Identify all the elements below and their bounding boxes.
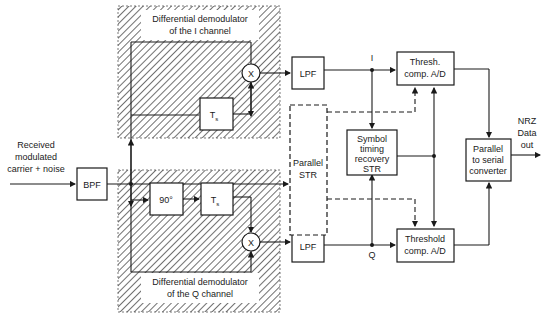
thresh-i-label-2: comp. A/D <box>404 69 446 79</box>
output-label-2: Data <box>517 128 536 138</box>
output-label-3: out <box>521 140 534 150</box>
input-label-3: carrier + noise <box>7 164 64 174</box>
p2s-label-2: to serial <box>472 155 504 165</box>
i-multiplier-label: X <box>248 69 254 79</box>
str-label-4: STR <box>363 164 382 174</box>
i-lpf-label: LPF <box>300 69 317 79</box>
str-label-2: timing <box>360 144 384 154</box>
thresh-i-label-1: Thresh. <box>410 57 441 67</box>
p2s-label-1: Parallel <box>473 144 503 154</box>
str-label-3: recovery <box>355 154 390 164</box>
p2s-label-3: converter <box>469 166 507 176</box>
q-delay-block <box>201 183 233 215</box>
input-label-2: modulated <box>15 152 57 162</box>
phase-shift-label: 90° <box>159 195 173 205</box>
output-label-1: NRZ <box>518 116 537 126</box>
thresh-q-label-2: comp. A/D <box>404 246 446 256</box>
bpf-label: BPF <box>83 180 101 190</box>
i-demod-title-2: of the I channel <box>169 26 231 36</box>
parallel-str-label-1: Parallel <box>293 158 323 168</box>
str-label-1: Symbol <box>357 134 387 144</box>
q-demod-title-2: of the Q channel <box>167 289 233 299</box>
q-signal-label: Q <box>368 250 375 260</box>
q-lpf-label: LPF <box>300 242 317 252</box>
q-demod-title-1: Differential demodulator <box>152 277 247 287</box>
i-demod-title-1: Differential demodulator <box>152 14 247 24</box>
thresh-q-label-1: Threshold <box>405 234 445 244</box>
block-diagram: Differential demodulator of the I channe… <box>0 0 546 316</box>
q-multiplier-label: X <box>248 238 254 248</box>
parallel-str-label-2: STR <box>299 170 318 180</box>
i-delay-block <box>200 98 233 130</box>
i-signal-label: I <box>371 53 374 63</box>
input-label-1: Received <box>17 140 55 150</box>
